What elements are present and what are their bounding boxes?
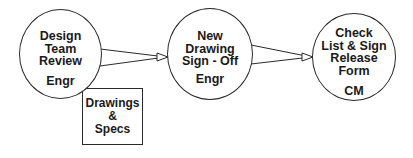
drawings-specs-box: Drawings & Specs — [82, 88, 143, 145]
node-title-line: Design — [40, 30, 82, 43]
node-title-line: Form — [338, 65, 369, 78]
node-design-team-review: Design Team Review Engr — [19, 9, 102, 99]
node-title-line: Release — [330, 52, 377, 65]
node-title-line: Check — [335, 27, 373, 40]
node-title: Design Team Review — [20, 30, 101, 68]
node-check-list-sign-release-form: Check List & Sign Release Form CM — [312, 13, 396, 101]
node-title: Check List & Sign Release Form — [313, 27, 395, 77]
process-flow-diagram: Drawings & Specs Design Team Review Engr… — [0, 0, 413, 158]
node-title-line: Review — [39, 55, 82, 68]
node-title-line: New — [197, 30, 223, 43]
node-role: CM — [313, 85, 395, 98]
flow-arrow-1 — [100, 49, 168, 66]
node-role: Engr — [168, 73, 252, 86]
node-new-drawing-sign-off: New Drawing Sign - Off Engr — [167, 8, 253, 100]
flow-arrow-2 — [251, 45, 313, 64]
box-line-3: Specs — [95, 123, 130, 136]
node-role: Engr — [20, 75, 101, 88]
node-title: New Drawing Sign - Off — [168, 30, 252, 68]
node-title-line: Sign - Off — [182, 55, 238, 68]
